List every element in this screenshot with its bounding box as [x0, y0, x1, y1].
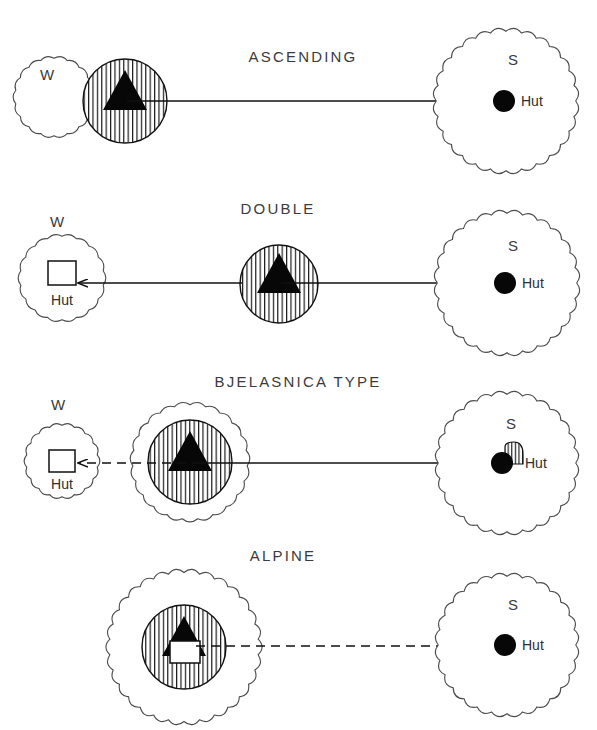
south-zone-double: SHut — [434, 210, 579, 355]
west-hut-label: Hut — [51, 292, 73, 308]
south-zone-label: S — [508, 596, 518, 613]
west-zone-bjelasnica: WHut — [24, 396, 100, 498]
south-hut-label: Hut — [522, 637, 544, 653]
south-settlement-dot — [491, 452, 513, 474]
diagram-row-alpine: ALPINESHut — [106, 547, 579, 725]
south-zone-ascending: SHut — [433, 28, 578, 173]
diagram-row-ascending: ASCENDINGWSHut — [13, 28, 578, 173]
row-title-bjelasnica: BJELASNICA TYPE — [215, 373, 382, 390]
south-hut-label: Hut — [521, 93, 543, 109]
south-settlement-dot — [494, 634, 516, 656]
west-hut-label: Hut — [51, 476, 73, 492]
row-title-alpine: ALPINE — [250, 547, 317, 564]
south-hut-label: Hut — [522, 275, 544, 291]
row-title-ascending: ASCENDING — [249, 48, 358, 65]
middle-zone-double — [240, 245, 318, 323]
south-settlement-dot — [494, 272, 516, 294]
west-zone-double: WHut — [18, 213, 106, 321]
west-zone-label: W — [51, 396, 66, 413]
south-settlement-dot — [493, 90, 515, 112]
diagram-canvas: ASCENDINGWSHutDOUBLEWHutSHutBJELASNICA T… — [0, 0, 597, 730]
west-hut-square — [49, 450, 75, 472]
diagram-row-bjelasnica: BJELASNICA TYPEWHutSHut — [24, 373, 579, 535]
diagram-row-double: DOUBLEWHutSHut — [18, 200, 579, 356]
settlement-type-diagram: ASCENDINGWSHutDOUBLEWHutSHutBJELASNICA T… — [0, 0, 597, 730]
middle-zone-alpine — [106, 569, 262, 724]
south-zone-bjelasnica: SHut — [435, 391, 578, 534]
south-zone-alpine: SHut — [435, 573, 578, 716]
south-zone-label: S — [508, 237, 518, 254]
west-hut-square — [48, 261, 76, 285]
west-zone-label: W — [50, 213, 65, 230]
row-title-double: DOUBLE — [241, 200, 316, 217]
middle-hut-square — [170, 641, 200, 663]
south-zone-label: S — [508, 51, 518, 68]
south-hut-label: Hut — [525, 455, 547, 471]
west-zone-label: W — [40, 66, 55, 83]
south-zone-label: S — [506, 415, 516, 432]
